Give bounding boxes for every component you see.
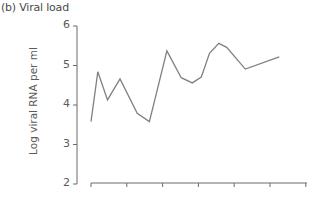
viral-load-line: [91, 43, 279, 121]
x-axis: [91, 183, 307, 187]
plot-area: [0, 0, 315, 198]
y-axis: [73, 26, 77, 184]
